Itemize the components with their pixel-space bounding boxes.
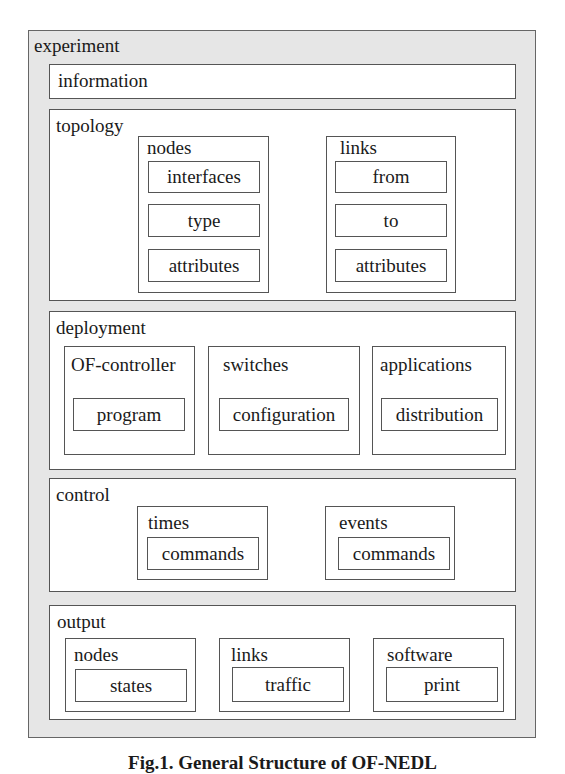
topology-nodes-box: nodes interfaces type attributes xyxy=(138,136,269,293)
deployment-label: deployment xyxy=(56,318,146,338)
program-box: program xyxy=(73,398,185,431)
output-software-box: software print xyxy=(373,638,504,712)
nodes-interfaces-box: interfaces xyxy=(148,161,260,193)
states-box: states xyxy=(75,669,187,702)
times-commands-box: commands xyxy=(147,537,259,570)
links-to-box: to xyxy=(335,204,447,237)
links-from-box: from xyxy=(335,161,447,193)
output-links-label: links xyxy=(231,645,268,665)
deployment-switches-box: switches configuration xyxy=(208,346,360,455)
nodes-attributes-box: attributes xyxy=(148,249,260,282)
deployment-box: deployment OF-controller program switche… xyxy=(49,311,516,470)
topology-links-box: links from to attributes xyxy=(326,136,456,293)
output-nodes-label: nodes xyxy=(74,645,118,665)
deployment-applications-box: applications distribution xyxy=(372,346,506,455)
information-box: information xyxy=(49,64,516,99)
deployment-of-controller-box: OF-controller program xyxy=(64,346,195,455)
information-label: information xyxy=(58,71,148,91)
topology-nodes-label: nodes xyxy=(147,138,191,158)
traffic-box: traffic xyxy=(232,667,344,702)
software-label: software xyxy=(387,645,452,665)
switches-label: switches xyxy=(223,355,288,375)
control-events-box: events commands xyxy=(325,506,455,580)
print-box: print xyxy=(386,667,498,702)
control-box: control times commands events commands xyxy=(49,478,516,592)
of-controller-label: OF-controller xyxy=(71,355,175,375)
nodes-type-box: type xyxy=(148,204,260,237)
topology-links-label: links xyxy=(340,138,377,158)
events-commands-box: commands xyxy=(338,537,450,570)
applications-label: applications xyxy=(380,355,472,375)
distribution-box: distribution xyxy=(381,398,498,431)
times-label: times xyxy=(148,513,189,533)
output-links-box: links traffic xyxy=(219,638,350,712)
output-box: output nodes states links traffic softwa… xyxy=(49,605,516,720)
events-label: events xyxy=(339,513,388,533)
figure-caption: Fig.1. General Structure of OF-NEDL xyxy=(0,752,565,774)
experiment-label: experiment xyxy=(34,36,119,56)
control-times-box: times commands xyxy=(137,506,268,580)
output-label: output xyxy=(57,612,106,632)
topology-label: topology xyxy=(56,116,124,136)
output-nodes-box: nodes states xyxy=(65,638,196,712)
links-attributes-box: attributes xyxy=(335,249,447,282)
control-label: control xyxy=(56,485,110,505)
topology-box: topology nodes interfaces type attribute… xyxy=(49,109,516,301)
experiment-box: experiment information topology nodes in… xyxy=(28,30,536,738)
configuration-box: configuration xyxy=(219,398,349,431)
